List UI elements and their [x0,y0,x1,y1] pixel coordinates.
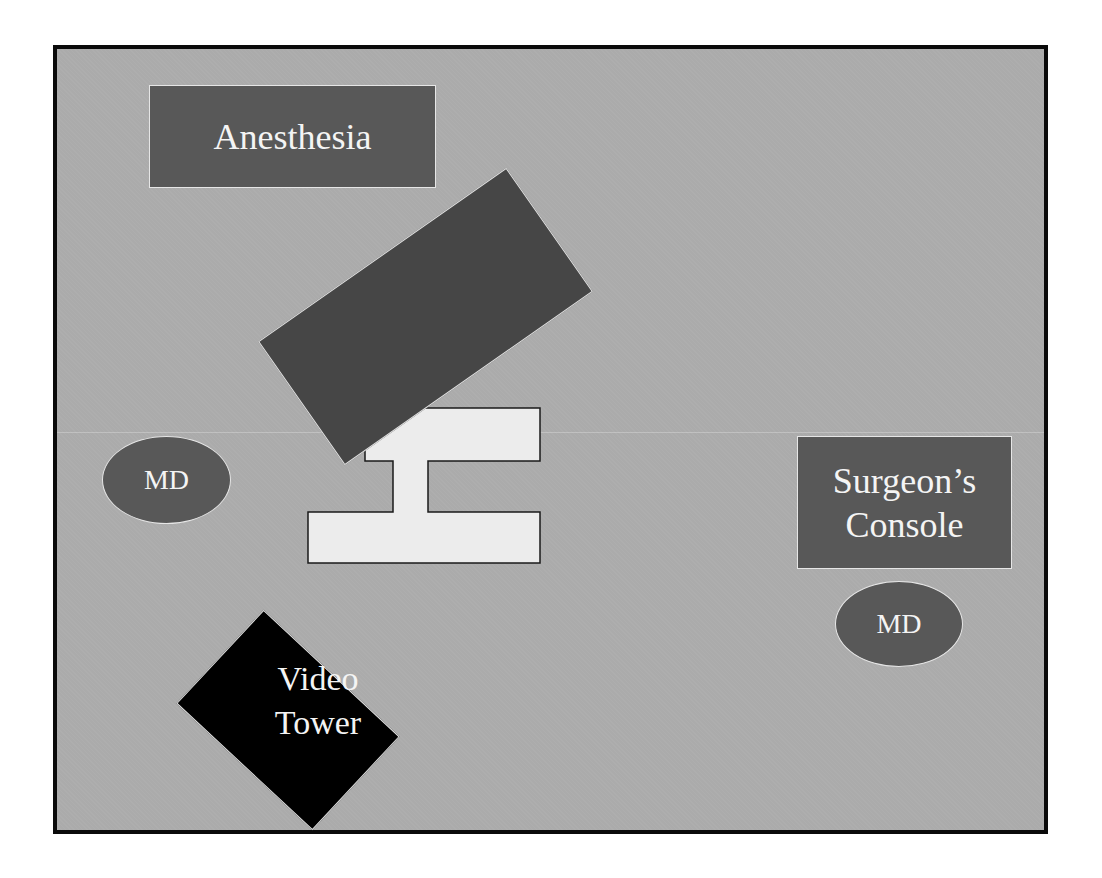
video-tower-label: Video Tower [253,657,383,745]
surgeon-console-station: Surgeon’s Console [797,436,1012,569]
room-floor: Anesthesia MD Surgeon’s Console MD Video… [53,45,1048,834]
md-right-label: MD [876,608,921,640]
md-right-ellipse: MD [835,581,963,667]
surgeon-console-label-line2: Console [845,503,963,547]
surgeon-console-label-line1: Surgeon’s [833,459,976,503]
md-left-label: MD [144,464,189,496]
video-tower-label-line1: Video [253,657,383,701]
md-left-ellipse: MD [102,436,231,524]
video-tower-label-line2: Tower [253,701,383,745]
